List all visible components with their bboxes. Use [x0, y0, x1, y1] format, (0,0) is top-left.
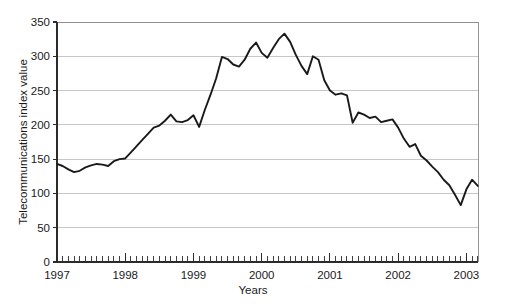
- x-axis-title-group: Years: [239, 284, 268, 296]
- y-tick-label-150: 150: [31, 153, 50, 165]
- telecom-index-line-chart: 050100150200250300350 199719981999200020…: [0, 0, 506, 308]
- x-tick-label-2002: 2002: [385, 269, 411, 281]
- y-tick-label-350: 350: [31, 16, 50, 28]
- x-tick-label-1999: 1999: [181, 269, 207, 281]
- y-axis-title: Telecommunications index value: [17, 59, 29, 225]
- y-tick-label-250: 250: [31, 85, 50, 97]
- x-tick-label-2001: 2001: [317, 269, 343, 281]
- x-tick-label-1998: 1998: [112, 269, 138, 281]
- y-tick-label-300: 300: [31, 50, 50, 62]
- y-axis-tick-labels: 050100150200250300350: [31, 16, 50, 268]
- x-tick-label-2000: 2000: [249, 269, 275, 281]
- x-axis-tick-labels: 1997199819992000200120022003: [44, 269, 479, 281]
- y-tick-label-50: 50: [37, 222, 50, 234]
- x-tick-label-2003: 2003: [454, 269, 480, 281]
- y-axis: [53, 22, 57, 262]
- y-tick-label-200: 200: [31, 119, 50, 131]
- y-tick-label-0: 0: [44, 256, 50, 268]
- x-axis-title: Years: [239, 284, 268, 296]
- y-tick-label-100: 100: [31, 187, 50, 199]
- y-axis-title-group: Telecommunications index value: [17, 59, 29, 225]
- x-tick-label-1997: 1997: [44, 269, 70, 281]
- chart-canvas: 050100150200250300350 199719981999200020…: [0, 0, 506, 308]
